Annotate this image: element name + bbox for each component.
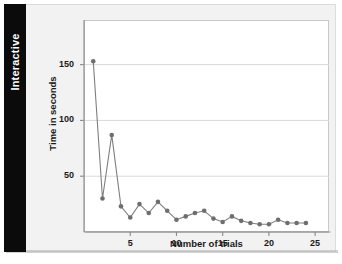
- data-point: [193, 211, 198, 216]
- data-point: [165, 209, 170, 214]
- data-point: [174, 217, 179, 222]
- data-point: [146, 211, 151, 216]
- data-point: [285, 221, 290, 226]
- data-point: [109, 133, 114, 138]
- x-tick-label: 15: [213, 238, 233, 248]
- chart-series: [26, 4, 336, 252]
- x-tick-label: 5: [120, 238, 140, 248]
- data-point: [276, 217, 281, 222]
- data-point: [128, 215, 133, 220]
- data-point: [230, 214, 235, 219]
- data-point: [248, 221, 253, 226]
- data-point: [137, 202, 142, 207]
- screenshot-root: Interactive Time in seconds Number of tr…: [0, 0, 342, 264]
- data-point: [211, 216, 216, 221]
- data-point: [239, 219, 244, 224]
- data-point: [220, 220, 225, 225]
- data-point: [304, 221, 309, 226]
- x-tick-label: 25: [305, 238, 325, 248]
- data-point: [183, 214, 188, 219]
- data-point: [119, 204, 124, 209]
- interactive-tab-label: Interactive: [9, 33, 21, 90]
- data-point: [257, 222, 262, 227]
- x-tick-label: 10: [166, 238, 186, 248]
- x-tick-label: 20: [259, 238, 279, 248]
- series-line: [93, 61, 306, 224]
- data-point: [156, 200, 161, 205]
- y-tick-label: 50: [46, 170, 74, 180]
- series-markers: [91, 59, 308, 227]
- data-point: [202, 209, 207, 214]
- data-point: [294, 221, 299, 226]
- chart-figure: Time in seconds Number of trials 5010015…: [26, 4, 336, 252]
- data-point: [100, 196, 105, 201]
- y-tick-label: 150: [46, 59, 74, 69]
- data-point: [267, 222, 272, 227]
- data-point: [91, 59, 96, 64]
- interactive-tab[interactable]: Interactive: [4, 4, 26, 252]
- y-tick-label: 100: [46, 114, 74, 124]
